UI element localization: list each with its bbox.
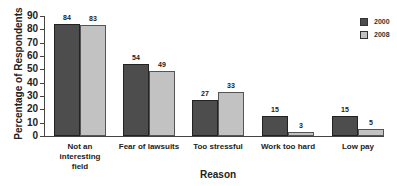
legend: 2000 2008: [360, 15, 390, 41]
bar-value-label: 54: [123, 54, 149, 61]
legend-item-2008: 2008: [360, 28, 390, 41]
bar-value-label: 84: [54, 14, 80, 21]
y-tick-label: 0: [14, 131, 38, 141]
y-tick-label: 10: [14, 118, 38, 128]
y-tick-label: 40: [14, 78, 38, 88]
y-tick-label: 30: [14, 91, 38, 101]
bar-value-label: 15: [332, 106, 358, 113]
bar-2000: [192, 100, 218, 136]
bar-2008: [149, 71, 175, 136]
bar-2000: [54, 24, 80, 136]
bar-value-label: 33: [218, 82, 244, 89]
bar-2000: [123, 64, 149, 136]
y-tick-label: 60: [14, 51, 38, 61]
bar-chart: Percentage of Respondents 01020304050607…: [0, 0, 397, 186]
y-tick-label: 70: [14, 38, 38, 48]
bar-value-label: 15: [262, 106, 288, 113]
bar-2000: [262, 116, 288, 136]
bar-value-label: 3: [288, 122, 314, 129]
x-axis-label: Reason: [200, 169, 236, 180]
bar-value-label: 49: [149, 61, 175, 68]
bar-2008: [80, 25, 106, 136]
y-tick-label: 50: [14, 64, 38, 74]
bar-2008: [218, 92, 244, 136]
y-tick-label: 20: [14, 104, 38, 114]
bar-value-label: 83: [80, 15, 106, 22]
x-axis-line: [44, 136, 384, 137]
x-category-label: Fear of lawsuits: [114, 142, 184, 152]
x-category-label: Too stressful: [183, 142, 253, 152]
legend-swatch-2000: [360, 18, 368, 26]
legend-label-2008: 2008: [374, 31, 390, 38]
x-category-label: Not aninterestingfield: [45, 142, 115, 172]
x-category-label: Work too hard: [253, 142, 323, 152]
y-axis-line: [44, 16, 45, 137]
x-category-label: Low pay: [323, 142, 393, 152]
y-tick-label: 90: [14, 11, 38, 21]
legend-item-2000: 2000: [360, 15, 390, 28]
bar-value-label: 5: [358, 119, 384, 126]
legend-label-2000: 2000: [374, 18, 390, 25]
bar-2008: [358, 129, 384, 136]
legend-swatch-2008: [360, 31, 368, 39]
bar-2008: [288, 132, 314, 136]
bar-value-label: 27: [192, 90, 218, 97]
bar-2000: [332, 116, 358, 136]
y-tick-label: 80: [14, 24, 38, 34]
